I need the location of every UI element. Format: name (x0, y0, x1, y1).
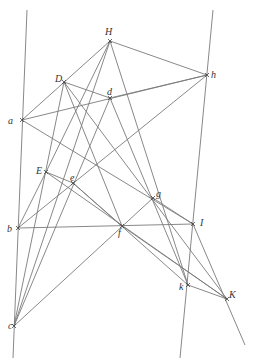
point-labels: HhDdaEegbIfkKc (7, 26, 237, 331)
point-label-E: E (35, 165, 42, 176)
point-label-I: I (199, 217, 204, 228)
line-f-K (122, 226, 227, 299)
point-label-H: H (104, 26, 113, 37)
line-D-K (64, 82, 227, 299)
line-D-d (64, 82, 110, 98)
point-label-c: c (8, 320, 13, 331)
point-label-D: D (54, 73, 63, 84)
point-label-b: b (7, 223, 12, 234)
line-I-ext (193, 224, 245, 345)
line-D-c (14, 82, 64, 326)
line-a-I (22, 120, 193, 224)
point-label-g: g (156, 188, 161, 199)
point-label-h: h (211, 69, 216, 80)
line-b-I (18, 224, 193, 228)
line-k-K (188, 285, 227, 299)
point-label-f: f (118, 227, 122, 238)
line-d-k (110, 98, 188, 285)
line-g-I (153, 198, 193, 224)
point-label-K: K (228, 289, 237, 300)
line-e-f (73, 183, 122, 226)
line-c-g (14, 198, 153, 326)
point-label-e: e (70, 172, 75, 183)
construction-lines (13, 10, 245, 358)
line-H-k (110, 41, 188, 285)
line-H-h (110, 41, 207, 75)
line-D-f (64, 82, 122, 226)
line-b-E (18, 172, 46, 228)
point-label-k: k (179, 281, 184, 292)
point-label-a: a (8, 115, 13, 126)
point-label-d: d (107, 86, 113, 97)
line-left-vertical (13, 10, 27, 358)
geometry-diagram: HhDdaEegbIfkKc (0, 0, 255, 362)
line-right-vertical (180, 10, 213, 358)
line-d-c (14, 98, 110, 326)
